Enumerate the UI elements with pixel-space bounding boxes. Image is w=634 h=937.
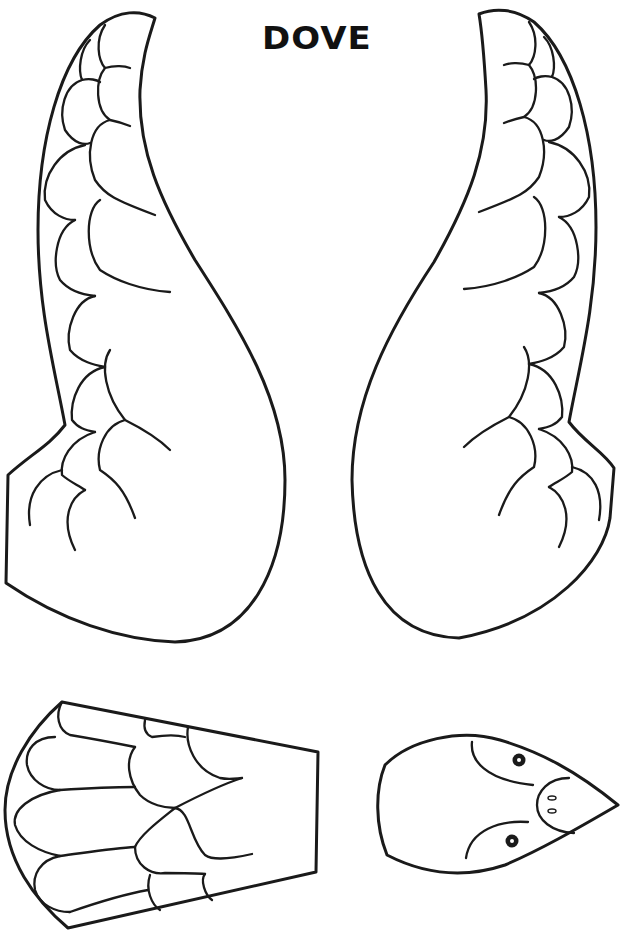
dove-template-artwork [0, 0, 634, 937]
left-wing-piece [6, 13, 285, 642]
head-piece [378, 735, 618, 873]
tail-piece [5, 702, 318, 928]
right-wing-piece [352, 10, 614, 638]
